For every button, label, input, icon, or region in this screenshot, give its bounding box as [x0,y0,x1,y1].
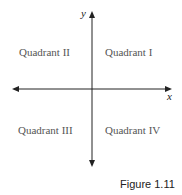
y-axis-up-arrow-icon [89,11,95,18]
figure-caption: Figure 1.11 [120,178,175,190]
y-axis-down-arrow-icon [89,160,95,167]
quadrant-4-label: Quadrant IV [105,124,160,136]
quadrant-2-label: Quadrant II [19,46,70,58]
x-axis-left-arrow-icon [12,86,19,92]
y-axis-label: y [81,7,86,19]
x-axis-label: x [167,90,172,102]
coordinate-plane-diagram: y x Quadrant II Quadrant I Quadrant III … [0,0,182,195]
axes-graphic [0,0,182,195]
quadrant-1-label: Quadrant I [105,46,152,58]
quadrant-3-label: Quadrant III [18,124,73,136]
